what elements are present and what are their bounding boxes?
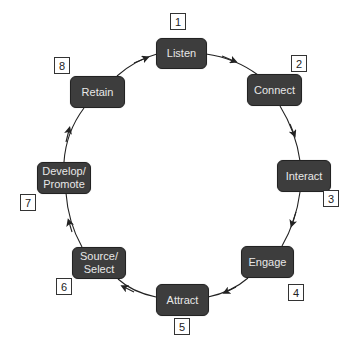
step-source-select: Source/ Select [72,247,126,279]
step-number-badge: 3 [323,190,339,207]
step-number-badge: 2 [291,55,307,72]
arrow-connect-interact [280,106,300,161]
step-label: Develop/ Promote [42,165,86,191]
step-retain: Retain [70,76,125,108]
step-number-badge: 4 [288,284,304,301]
step-engage: Engage [241,246,294,278]
step-listen: Listen [156,38,207,69]
arrow-develop-retain [64,108,84,162]
step-interact: Interact [277,160,331,192]
step-label: Engage [249,256,287,269]
arrow-interact-engage [282,192,300,246]
arrow-retain-listen [117,54,157,76]
step-attract: Attract [156,284,209,316]
step-number-badge: 8 [54,57,70,74]
arrow-engage-attract [208,278,248,297]
step-number-badge: 6 [56,278,72,295]
arrow-listen-connect [206,54,258,75]
step-label: Interact [286,170,323,183]
step-label: Source/ Select [79,250,119,276]
step-develop-promote: Develop/ Promote [37,162,91,194]
arrow-source-develop [66,193,82,247]
step-label: Connect [254,84,295,97]
step-number-badge: 1 [170,13,186,30]
step-connect: Connect [247,74,302,106]
step-label: Listen [167,47,196,60]
step-label: Attract [167,294,199,307]
arrow-attract-source [118,279,156,297]
step-label: Retain [82,86,114,99]
cycle-diagram: Listen Connect Interact Engage Attract S… [0,0,355,351]
step-number-badge: 7 [20,194,36,211]
step-number-badge: 5 [174,318,190,335]
